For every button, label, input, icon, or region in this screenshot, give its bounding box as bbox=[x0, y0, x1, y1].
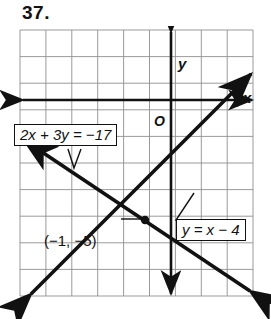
page-title: 37. bbox=[22, 2, 50, 24]
origin-label: O bbox=[154, 113, 165, 129]
x-axis-label: x bbox=[243, 89, 251, 106]
intersection-point-label: (−1, −5) bbox=[44, 232, 97, 249]
grid bbox=[20, 30, 253, 296]
graph-svg bbox=[0, 26, 271, 319]
coordinate-graph-figure: 2x + 3y = −17 y = x − 4 (−1, −5) O x y bbox=[0, 26, 271, 319]
intersection-point-marker bbox=[141, 216, 149, 224]
equation-label-2: y = x − 4 bbox=[176, 219, 246, 241]
equation-label-1: 2x + 3y = −17 bbox=[14, 124, 117, 146]
y-axis-label: y bbox=[178, 55, 186, 72]
